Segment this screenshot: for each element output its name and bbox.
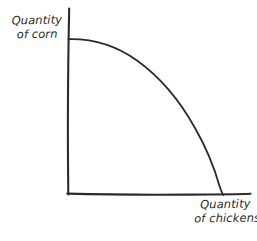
y-axis-label: Quantity of corn bbox=[6, 13, 69, 41]
x-axis-label-line-2: of chickens bbox=[194, 211, 257, 225]
y-axis-label-line-2: of corn bbox=[6, 27, 68, 41]
y-axis-label-line-1: Quantity bbox=[6, 13, 68, 28]
x-axis-label: Quantity of chickens bbox=[194, 197, 257, 225]
ppf-sketch-figure: Quantity of corn Quantity of chickens bbox=[0, 0, 257, 241]
ppf-curve bbox=[69, 39, 224, 195]
